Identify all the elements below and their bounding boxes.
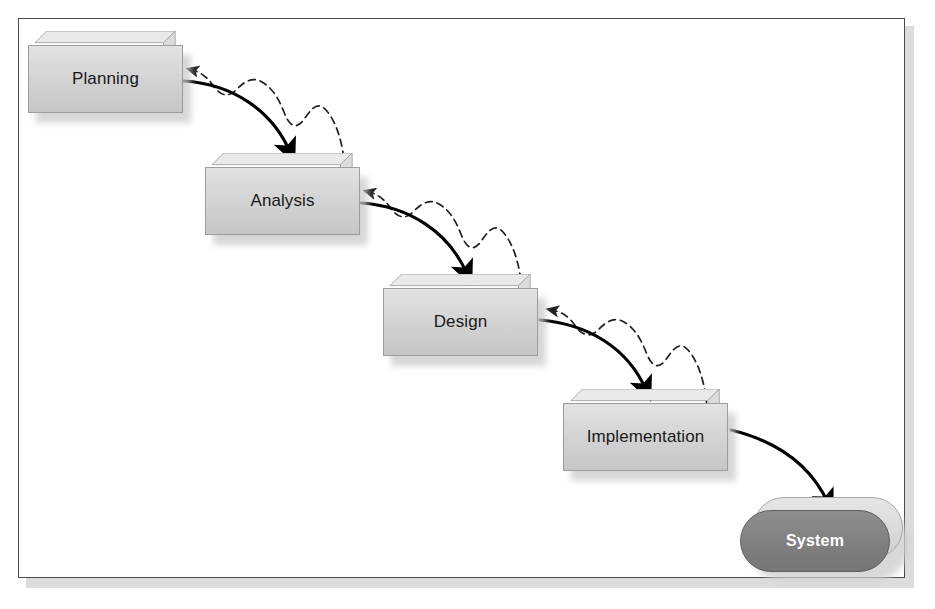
system-front-face: System: [740, 510, 890, 572]
stage-label-analysis: Analysis: [205, 167, 360, 235]
stage-label-implementation: Implementation: [563, 403, 728, 471]
diagram-page: Planning Analysis Design: [0, 0, 935, 609]
stage-implementation[interactable]: Implementation: [563, 403, 728, 471]
stage-label-design: Design: [383, 288, 538, 356]
flow-arrow-analysis-to-design: [361, 203, 467, 274]
flow-arrow-implementation-to-system: [731, 430, 828, 503]
diagram-canvas: Planning Analysis Design: [0, 0, 935, 609]
stage-design[interactable]: Design: [383, 288, 538, 356]
flow-arrow-design-to-implementation: [540, 320, 646, 390]
stage-system[interactable]: System: [740, 497, 903, 572]
stage-label-system: System: [786, 532, 844, 550]
stage-planning[interactable]: Planning: [28, 45, 183, 113]
flow-arrow-planning-to-analysis: [184, 81, 290, 152]
stage-analysis[interactable]: Analysis: [205, 167, 360, 235]
stage-label-planning: Planning: [28, 45, 183, 113]
